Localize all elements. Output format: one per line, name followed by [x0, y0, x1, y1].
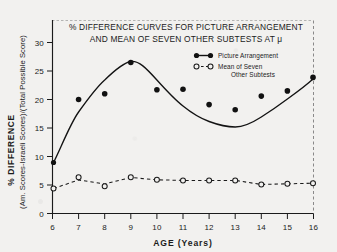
y-tick-label: 25: [35, 67, 45, 76]
x-tick-label: 16: [309, 223, 319, 232]
x-axis: [52, 214, 314, 220]
y-tick-labels: 30 25 20 15 10 5 0: [35, 39, 45, 219]
x-tick-label: 12: [204, 223, 214, 232]
x-tick-label: 6: [50, 223, 55, 232]
data-point-open: [181, 178, 186, 183]
x-tick-label: 15: [283, 223, 293, 232]
data-point-open: [259, 182, 264, 187]
chart-svg: 30 25 20 15 10 5 0 6 7 8: [0, 0, 337, 252]
chart-title-line1: % DIFFERENCE CURVES FOR PICTURE ARRANGEM…: [69, 22, 303, 32]
y-tick-label: 5: [39, 181, 44, 190]
data-point-open: [233, 178, 238, 183]
legend-label-mean-seven-line1: Mean of Seven: [218, 63, 263, 70]
data-point-open: [154, 177, 159, 182]
legend-entry-picture-arrangement: Picture Arrangement: [194, 52, 278, 60]
x-tick-labels: 6 7 8 9 10 11 12 13 14 15 16: [50, 223, 318, 232]
data-point-filled: [259, 93, 265, 99]
legend-marker-filled-circle: [194, 53, 199, 58]
plot-frame: [52, 21, 314, 214]
data-point-open: [285, 181, 290, 186]
y-axis: [47, 20, 53, 214]
chart-legend: Picture Arrangement Mean of Seven Other …: [194, 52, 278, 78]
chart-title-line2: AND MEAN OF SEVEN OTHER SUBTESTS AT μ: [90, 34, 283, 44]
x-tick-label: 9: [128, 223, 133, 232]
x-tick-label: 10: [152, 223, 162, 232]
y-tick-label: 20: [35, 96, 45, 105]
legend-label-picture-arrangement: Picture Arrangement: [218, 52, 278, 60]
y-tick-label: 10: [35, 153, 45, 162]
series-mean-seven-points: [51, 175, 316, 191]
x-tick-label: 7: [76, 223, 81, 232]
data-point-filled: [310, 75, 316, 81]
data-point-filled: [51, 160, 56, 165]
y-tick-label: 30: [35, 39, 45, 48]
data-point-open: [311, 181, 316, 186]
y-tick-label: 15: [35, 124, 45, 133]
data-point-filled: [128, 60, 134, 66]
legend-marker-open-circle: [208, 64, 213, 69]
y-axis-title: % DIFFERENCE: [6, 114, 16, 186]
figure-panel: 30 25 20 15 10 5 0 6 7 8: [0, 0, 337, 252]
data-point-filled: [102, 91, 108, 97]
data-point-filled: [285, 88, 291, 94]
data-point-open: [128, 175, 133, 180]
data-point-open: [102, 184, 107, 189]
data-point-filled: [206, 102, 212, 108]
x-tick-label: 13: [231, 223, 241, 232]
data-point-filled: [76, 97, 82, 103]
legend-marker-open-circle: [194, 64, 199, 69]
x-axis-title: AGE (Years): [153, 238, 213, 248]
y-tick-label: 0: [39, 210, 44, 219]
x-tick-label: 8: [102, 223, 107, 232]
data-point-filled: [154, 87, 160, 93]
legend-entry-mean-seven: Mean of Seven Other Subtests: [194, 63, 275, 78]
data-point-filled: [232, 107, 238, 113]
data-point-open: [76, 175, 81, 180]
series-picture-arrangement-points: [51, 60, 316, 165]
x-tick-label: 11: [179, 223, 188, 232]
legend-label-mean-seven-line2: Other Subtests: [231, 71, 275, 78]
data-point-open: [207, 178, 212, 183]
legend-marker-filled-circle: [208, 53, 213, 58]
y-axis-subtitle: (Am. Scores-Israeli Scores)/(Total Possi…: [18, 35, 27, 209]
x-tick-label: 14: [257, 223, 267, 232]
data-point-open: [51, 186, 56, 191]
data-point-filled: [180, 86, 186, 92]
